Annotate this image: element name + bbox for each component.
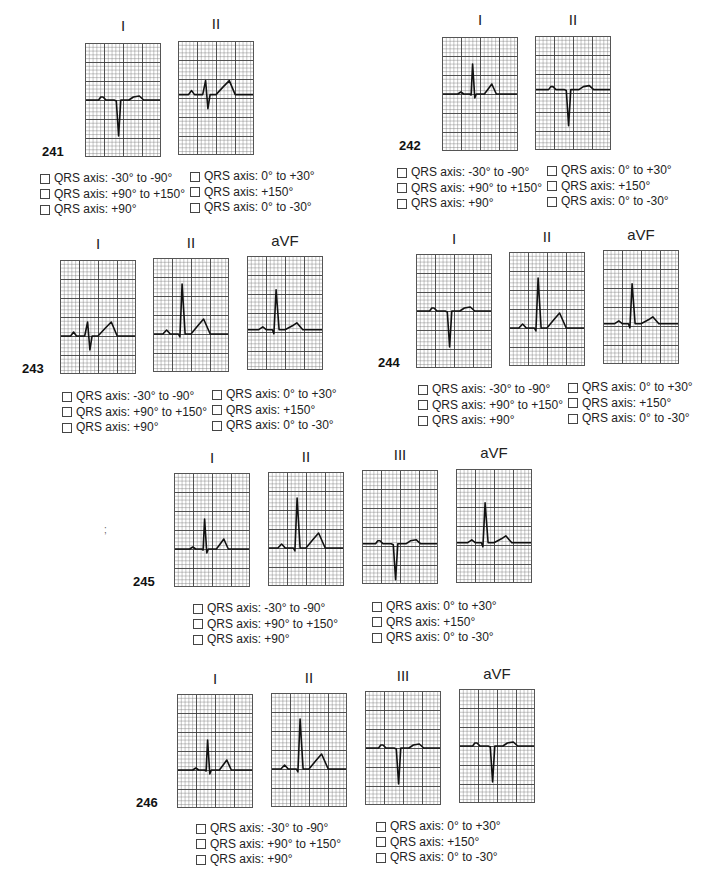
checkbox[interactable] [212, 421, 222, 431]
lead-label-aVF: aVF [603, 226, 679, 243]
lead-label-aVF: aVF [247, 232, 323, 249]
ecg-trace [269, 473, 343, 585]
question-number: 241 [42, 144, 64, 159]
checkbox[interactable] [418, 400, 428, 410]
checkbox[interactable] [372, 617, 382, 627]
option-0-to-neg30[interactable]: QRS axis: 0° to -30° [547, 194, 672, 210]
ecg-trace [175, 474, 249, 586]
option-0-to-pos30[interactable]: QRS axis: 0° to +30° [568, 380, 693, 396]
ecg-strip-lead-II [153, 258, 229, 372]
ecg-trace [272, 694, 346, 806]
option-0-to-pos30[interactable]: QRS axis: 0° to +30° [372, 599, 497, 615]
checkbox[interactable] [193, 619, 203, 629]
options-left: QRS axis: -30° to -90° QRS axis: +90° to… [196, 821, 341, 868]
checkbox[interactable] [62, 392, 72, 402]
checkbox[interactable] [372, 602, 382, 612]
option-pos150[interactable]: QRS axis: +150° [190, 185, 315, 201]
ecg-trace [86, 44, 160, 156]
option-0-to-neg30[interactable]: QRS axis: 0° to -30° [212, 418, 337, 434]
checkbox[interactable] [62, 407, 72, 417]
ecg-strip-lead-II [509, 252, 585, 366]
lead-label-I: I [85, 17, 161, 34]
option-pos90[interactable]: QRS axis: +90° [418, 413, 563, 429]
options-right: QRS axis: 0° to +30° QRS axis: +150° QRS… [212, 387, 337, 434]
lead-label-III: III [362, 446, 438, 463]
options-left: QRS axis: -30° to -90° QRS axis: +90° to… [193, 601, 338, 648]
option-pos90[interactable]: QRS axis: +90° [196, 852, 341, 868]
lead-label-II: II [153, 234, 229, 251]
ecg-strip-lead-I [85, 43, 161, 157]
checkbox[interactable] [62, 423, 72, 433]
checkbox[interactable] [372, 633, 382, 643]
option-pos90-to-pos150[interactable]: QRS axis: +90° to +150° [418, 398, 563, 414]
checkbox[interactable] [547, 181, 557, 191]
checkbox[interactable] [547, 197, 557, 207]
question-number: 242 [399, 138, 421, 153]
option-0-to-neg30[interactable]: QRS axis: 0° to -30° [568, 411, 693, 427]
checkbox[interactable] [196, 839, 206, 849]
checkbox[interactable] [40, 174, 50, 184]
lead-label-I: I [174, 449, 250, 466]
checkbox[interactable] [397, 183, 407, 193]
ecg-trace [366, 692, 440, 804]
checkbox[interactable] [196, 824, 206, 834]
checkbox[interactable] [212, 390, 222, 400]
ecg-trace [61, 261, 135, 373]
checkbox[interactable] [418, 385, 428, 395]
option-pos90-to-pos150[interactable]: QRS axis: +90° to +150° [397, 181, 542, 197]
checkbox[interactable] [40, 189, 50, 199]
option-neg30-to-neg90[interactable]: QRS axis: -30° to -90° [193, 601, 338, 617]
option-pos150[interactable]: QRS axis: +150° [376, 835, 501, 851]
ecg-trace [178, 695, 252, 807]
option-pos90[interactable]: QRS axis: +90° [397, 196, 542, 212]
checkbox[interactable] [547, 166, 557, 176]
option-0-to-pos30[interactable]: QRS axis: 0° to +30° [376, 819, 501, 835]
checkbox[interactable] [196, 855, 206, 865]
checkbox[interactable] [190, 203, 200, 213]
checkbox[interactable] [376, 837, 386, 847]
ecg-trace [248, 257, 322, 369]
checkbox[interactable] [193, 604, 203, 614]
checkbox[interactable] [190, 172, 200, 182]
checkbox[interactable] [397, 168, 407, 178]
option-neg30-to-neg90[interactable]: QRS axis: -30° to -90° [40, 171, 185, 187]
option-pos90-to-pos150[interactable]: QRS axis: +90° to +150° [62, 405, 207, 421]
option-neg30-to-neg90[interactable]: QRS axis: -30° to -90° [196, 821, 341, 837]
option-pos150[interactable]: QRS axis: +150° [212, 403, 337, 419]
option-0-to-neg30[interactable]: QRS axis: 0° to -30° [376, 850, 501, 866]
checkbox[interactable] [568, 414, 578, 424]
option-pos150[interactable]: QRS axis: +150° [568, 396, 693, 412]
option-pos90-to-pos150[interactable]: QRS axis: +90° to +150° [193, 617, 338, 633]
question-number: 246 [136, 795, 158, 810]
option-0-to-pos30[interactable]: QRS axis: 0° to +30° [212, 387, 337, 403]
option-0-to-neg30[interactable]: QRS axis: 0° to -30° [372, 630, 497, 646]
option-pos90-to-pos150[interactable]: QRS axis: +90° to +150° [196, 837, 341, 853]
checkbox[interactable] [40, 205, 50, 215]
option-pos150[interactable]: QRS axis: +150° [372, 615, 497, 631]
checkbox[interactable] [397, 199, 407, 209]
option-neg30-to-neg90[interactable]: QRS axis: -30° to -90° [397, 165, 542, 181]
ecg-trace [179, 42, 253, 154]
option-pos150[interactable]: QRS axis: +150° [547, 179, 672, 195]
ecg-strip-lead-III [362, 470, 438, 584]
option-pos90[interactable]: QRS axis: +90° [62, 420, 207, 436]
options-left: QRS axis: -30° to -90° QRS axis: +90° to… [397, 165, 542, 212]
option-pos90[interactable]: QRS axis: +90° [193, 632, 338, 648]
checkbox[interactable] [190, 187, 200, 197]
option-0-to-pos30[interactable]: QRS axis: 0° to +30° [190, 169, 315, 185]
option-pos90-to-pos150[interactable]: QRS axis: +90° to +150° [40, 187, 185, 203]
ecg-strip-lead-II [178, 41, 254, 155]
option-0-to-pos30[interactable]: QRS axis: 0° to +30° [547, 163, 672, 179]
checkbox[interactable] [212, 405, 222, 415]
option-neg30-to-neg90[interactable]: QRS axis: -30° to -90° [418, 382, 563, 398]
option-0-to-neg30[interactable]: QRS axis: 0° to -30° [190, 200, 315, 216]
checkbox[interactable] [193, 635, 203, 645]
checkbox[interactable] [418, 416, 428, 426]
option-pos90[interactable]: QRS axis: +90° [40, 202, 185, 218]
checkbox[interactable] [376, 853, 386, 863]
checkbox[interactable] [376, 822, 386, 832]
checkbox[interactable] [568, 398, 578, 408]
lead-label-II: II [509, 228, 585, 245]
option-neg30-to-neg90[interactable]: QRS axis: -30° to -90° [62, 389, 207, 405]
checkbox[interactable] [568, 383, 578, 393]
